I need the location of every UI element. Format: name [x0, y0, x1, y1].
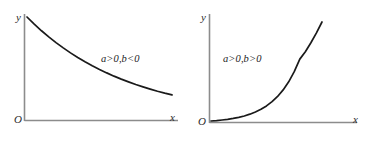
origin-label: O — [198, 116, 206, 127]
plot-panel-decay: y O x a>0,b<0 — [0, 0, 185, 145]
exponential-function-figure: y O x a>0,b<0 y O x a>0,b>0 — [0, 0, 370, 145]
x-axis-label: x — [170, 112, 175, 123]
y-axis-label: y — [16, 12, 21, 23]
exponential-growth-curve — [211, 22, 322, 121]
plot-panel-growth: y O x a>0,b>0 — [185, 0, 370, 145]
curve-annotation-growth: a>0,b>0 — [223, 54, 262, 65]
plot-canvas-growth — [185, 0, 370, 145]
curve-annotation-decay: a>0,b<0 — [101, 54, 140, 65]
x-axis-label: x — [353, 114, 358, 125]
origin-label: O — [14, 114, 22, 125]
exponential-decay-curve — [27, 17, 172, 95]
plot-canvas-decay — [0, 0, 185, 145]
y-axis-label: y — [201, 12, 206, 23]
